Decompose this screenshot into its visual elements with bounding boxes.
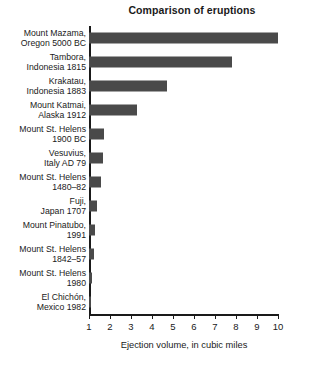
category-label-line: Mount St. Helens: [2, 172, 86, 182]
x-tick: [278, 314, 279, 319]
x-tick: [131, 314, 132, 319]
x-tick: [89, 314, 90, 319]
bar: [89, 81, 167, 92]
category-label-line: 1480–82: [2, 182, 86, 192]
category-label-line: Indonesia 1815: [2, 62, 86, 72]
bar-row: [89, 266, 278, 290]
category-label-line: Tambora,: [2, 52, 86, 62]
bar-row: [89, 74, 278, 98]
bar: [89, 249, 94, 260]
category-label-line: Vesuvius,: [2, 148, 86, 158]
bar: [89, 177, 101, 188]
bar: [89, 201, 97, 212]
bar-row: [89, 146, 278, 170]
bar-row: [89, 26, 278, 50]
category-label-line: Mount St. Helens: [2, 124, 86, 134]
bar: [89, 297, 91, 308]
bar-row: [89, 194, 278, 218]
x-tick: [110, 314, 111, 319]
category-label: Fuji,Japan 1707: [2, 196, 86, 217]
bar: [89, 225, 95, 236]
x-axis-line: [89, 314, 279, 316]
category-label-line: 1980: [2, 278, 86, 288]
chart-title: Comparison of eruptions: [0, 4, 332, 16]
bar-chart: Comparison of eruptions 12345678910 Moun…: [0, 0, 332, 370]
bar-row: [89, 122, 278, 146]
category-label: Mount St. Helens1980: [2, 268, 86, 289]
bar: [89, 129, 104, 140]
x-tick: [173, 314, 174, 319]
category-label: Mount Pinatubo,1991: [2, 220, 86, 241]
bar-row: [89, 170, 278, 194]
category-label: El Chichón,Mexico 1982: [2, 292, 86, 313]
bar-row: [89, 218, 278, 242]
category-label-line: Krakatau,: [2, 76, 86, 86]
x-tick: [215, 314, 216, 319]
category-label-line: Japan 1707: [2, 206, 86, 216]
category-label-line: 1991: [2, 230, 86, 240]
category-label: Mount St. Helens1842–57: [2, 244, 86, 265]
category-label: Mount Katmai,Alaska 1912: [2, 100, 86, 121]
category-label-line: Mount Mazama,: [2, 28, 86, 38]
category-label-line: Italy AD 79: [2, 158, 86, 168]
bar-row: [89, 98, 278, 122]
category-label: Vesuvius,Italy AD 79: [2, 148, 86, 169]
category-label: Mount Mazama,Oregon 5000 BC: [2, 28, 86, 49]
category-label: Mount St. Helens1900 BC: [2, 124, 86, 145]
x-tick: [152, 314, 153, 319]
category-label-line: Fuji,: [2, 196, 86, 206]
bar: [89, 273, 92, 284]
bar: [89, 33, 278, 44]
category-label: Mount St. Helens1480–82: [2, 172, 86, 193]
category-label: Krakatau,Indonesia 1883: [2, 76, 86, 97]
category-label: Tambora,Indonesia 1815: [2, 52, 86, 73]
bar: [89, 153, 103, 164]
category-label-line: Mount St. Helens: [2, 268, 86, 278]
category-label-line: Mount Pinatubo,: [2, 220, 86, 230]
bar: [89, 105, 137, 116]
category-label-line: Mount Katmai,: [2, 100, 86, 110]
bar-row: [89, 50, 278, 74]
bar-row: [89, 242, 278, 266]
category-label-line: Oregon 5000 BC: [2, 38, 86, 48]
category-label-line: 1842–57: [2, 254, 86, 264]
category-label-line: Mount St. Helens: [2, 244, 86, 254]
x-tick: [236, 314, 237, 319]
category-label-line: El Chichón,: [2, 292, 86, 302]
category-label-line: Indonesia 1883: [2, 86, 86, 96]
bar: [89, 57, 232, 68]
bar-row: [89, 290, 278, 314]
x-axis-label: Ejection volume, in cubic miles: [89, 340, 279, 350]
category-label-line: Alaska 1912: [2, 110, 86, 120]
x-tick: [257, 314, 258, 319]
plot-area: [89, 26, 278, 314]
category-label-line: Mexico 1982: [2, 302, 86, 312]
x-tick-label: 10: [266, 321, 290, 332]
bar-rows: [89, 26, 278, 314]
category-label-line: 1900 BC: [2, 134, 86, 144]
x-tick: [194, 314, 195, 319]
